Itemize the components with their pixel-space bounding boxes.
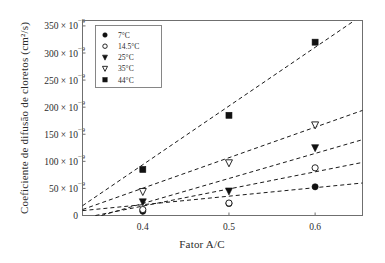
legend-label-25C: 25°C	[118, 53, 134, 62]
data-point-35C	[312, 122, 319, 129]
legend: 7°C14.5°C25°C35°C44°C	[96, 26, 162, 88]
y-tick-label: 0	[73, 211, 78, 221]
x-tick-label: 0.6	[309, 222, 321, 232]
svg-text:−9: −9	[78, 180, 86, 187]
data-point-7C	[312, 184, 318, 190]
trend-line-7C	[83, 183, 363, 211]
svg-text:−9: −9	[78, 99, 86, 106]
y-tick-label: 150 × 10−9	[44, 126, 86, 140]
y-tick-label: 250 × 10−9	[44, 72, 86, 86]
legend-label-145C: 14.5°C	[118, 42, 139, 51]
data-point-145C	[140, 206, 146, 212]
x-axis-tick-labels: 0.40.50.6	[137, 222, 321, 232]
data-point-35C	[225, 160, 232, 167]
legend-label-44C: 44°C	[118, 76, 134, 85]
svg-text:−9: −9	[78, 153, 86, 160]
data-point-44C	[226, 112, 232, 118]
svg-text:150 × 10: 150 × 10	[44, 130, 78, 140]
y-tick-label: 300 × 10−9	[44, 45, 86, 59]
x-tick-label: 0.5	[223, 222, 235, 232]
svg-text:0: 0	[73, 211, 78, 221]
legend-marker-7C	[103, 33, 107, 37]
y-axis-tick-labels: 050 × 10−9100 × 10−9150 × 10−9200 × 10−9…	[44, 17, 86, 221]
y-tick-label: 200 × 10−9	[44, 99, 86, 113]
data-point-44C	[140, 166, 146, 172]
legend-marker-44C	[103, 78, 107, 82]
data-point-44C	[312, 39, 318, 45]
x-axis-title: Fator A/C	[82, 238, 322, 250]
svg-text:50 × 10: 50 × 10	[49, 184, 78, 194]
y-tick-label: 100 × 10−9	[44, 153, 86, 167]
data-point-35C	[139, 189, 146, 196]
legend-label-7C: 7°C	[118, 31, 130, 40]
svg-text:−9: −9	[78, 126, 86, 133]
svg-text:200 × 10: 200 × 10	[44, 103, 78, 113]
y-axis-title: Coeficiente de difusão de cloretos (cm²/…	[18, 8, 30, 228]
svg-text:−9: −9	[78, 45, 86, 52]
data-point-25C	[225, 188, 232, 195]
svg-text:100 × 10: 100 × 10	[44, 157, 78, 167]
legend-marker-145C	[103, 44, 107, 48]
chart-figure: 050 × 10−9100 × 10−9150 × 10−9200 × 10−9…	[0, 0, 385, 263]
data-point-145C	[312, 165, 318, 171]
data-point-25C	[312, 145, 319, 152]
svg-text:300 × 10: 300 × 10	[44, 49, 78, 59]
x-tick-label: 0.4	[137, 222, 149, 232]
y-tick-label: 350 × 10−9	[44, 17, 86, 31]
svg-text:−9: −9	[78, 72, 86, 79]
svg-text:250 × 10: 250 × 10	[44, 76, 78, 86]
y-tick-label: 50 × 10−9	[49, 180, 86, 194]
legend-label-35C: 35°C	[118, 64, 134, 73]
data-point-145C	[226, 200, 232, 206]
svg-text:350 × 10: 350 × 10	[44, 21, 78, 31]
chart-canvas: 050 × 10−9100 × 10−9150 × 10−9200 × 10−9…	[0, 0, 385, 263]
trend-line-35C	[83, 110, 363, 209]
data-points	[139, 39, 318, 214]
